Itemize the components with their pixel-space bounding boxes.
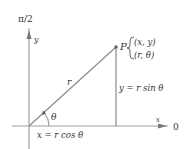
- horizontal-axis-arrow-icon: [158, 124, 167, 129]
- y-equation-label: y = r sin θ: [118, 83, 163, 93]
- x-equation-label: x = r cos θ: [37, 130, 83, 140]
- rect-coords-label: (x, y): [134, 37, 156, 47]
- x-axis-label: x: [156, 116, 160, 124]
- y-axis-label: y: [33, 35, 39, 44]
- radius-line: [29, 47, 116, 126]
- angle-arc: [44, 113, 49, 127]
- point-p: [114, 45, 118, 49]
- angle-label: θ: [51, 112, 57, 122]
- vertical-axis-arrow-icon: [27, 30, 32, 39]
- polar-axis-zero-label: 0: [173, 122, 179, 132]
- pi-over-2-label: π/2: [18, 14, 33, 24]
- radius-label: r: [67, 77, 72, 87]
- brace-icon: [127, 37, 134, 59]
- point-p-label: P: [119, 41, 127, 52]
- polar-coords-label: (r, θ): [134, 50, 154, 60]
- polar-coordinates-diagram: π/2 y x 0 P (x, y) (r, θ) r θ x = r cos …: [0, 0, 190, 149]
